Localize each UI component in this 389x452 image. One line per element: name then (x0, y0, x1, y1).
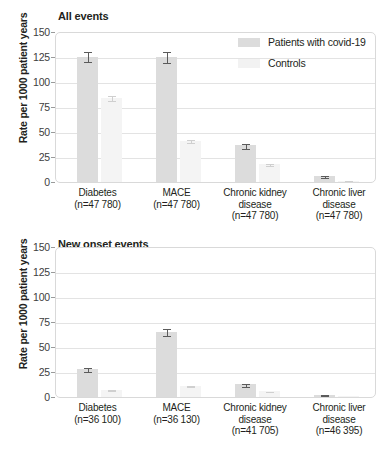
bar-covid-mace-new (156, 332, 177, 397)
x-label-diabetes-all: Diabetes (n=47 780) (55, 187, 140, 210)
x-label-cld-all-n: (n=47 780) (296, 210, 382, 222)
errorbar-covid-mace-new (167, 329, 168, 337)
x-label-cld-all: Chronic liver disease (n=47 780) (296, 187, 382, 222)
legend-swatch-covid-icon (238, 38, 260, 47)
x-label-ckd-new: Chronic kidney disease (n=41 705) (212, 402, 298, 437)
legend-label-covid: Patients with covid-19 (268, 36, 366, 48)
x-label-ckd-all-line2: disease (212, 199, 298, 211)
panel-all-events: All events Rate per 1000 patient years 1… (0, 0, 389, 226)
y-tickmark-150-new (51, 247, 55, 248)
y-tick-25-new: 25 (0, 366, 50, 378)
x-label-diabetes-new-name: Diabetes (55, 402, 140, 414)
gridline-125-all (56, 58, 375, 59)
errorbar-control-mace-new (191, 386, 192, 388)
gridline-25-new (56, 373, 375, 374)
y-tick-50-all: 50 (0, 126, 50, 138)
errorbar-covid-ckd-all (246, 144, 247, 150)
y-tick-75-new: 75 (0, 316, 50, 328)
errorbar-covid-cld-new (325, 395, 326, 397)
y-tickmark-0-new (51, 397, 55, 398)
gridline-125-new (56, 273, 375, 274)
y-tick-100-all: 100 (0, 76, 50, 88)
errorbar-control-ckd-new (270, 392, 271, 394)
x-label-ckd-new-n: (n=41 705) (212, 425, 298, 437)
errorbar-control-cld-new (349, 398, 350, 399)
errorbar-covid-mace-all (167, 52, 168, 64)
panel-new-onset-events: New onset events Rate per 1000 patient y… (0, 226, 389, 452)
x-label-ckd-new-line2: disease (212, 414, 298, 426)
y-tick-25-all: 25 (0, 151, 50, 163)
gridline-50-new (56, 348, 375, 349)
bar-control-diabetes-all (101, 98, 122, 182)
bar-covid-diabetes-all (77, 57, 98, 182)
x-label-mace-all-name: MACE (134, 187, 219, 199)
x-label-mace-new-n: (n=36 130) (134, 414, 219, 426)
bar-control-mace-all (180, 141, 201, 182)
x-label-diabetes-new: Diabetes (n=36 100) (55, 402, 140, 425)
gridline-100-new (56, 298, 375, 299)
x-label-cld-new-line2: disease (296, 414, 382, 426)
errorbar-control-diabetes-new (112, 390, 113, 392)
errorbar-control-cld-all (349, 181, 350, 182)
y-tick-0-new: 0 (0, 391, 50, 403)
x-label-mace-all: MACE (n=47 780) (134, 187, 219, 210)
x-label-cld-all-line1: Chronic liver (296, 187, 382, 199)
y-tick-125-new: 125 (0, 266, 50, 278)
x-label-ckd-all-n: (n=47 780) (212, 210, 298, 222)
legend-item-controls: Controls (238, 57, 306, 69)
y-tick-150-all: 150 (0, 26, 50, 38)
y-tick-50-new: 50 (0, 341, 50, 353)
gridline-75-new (56, 323, 375, 324)
errorbar-covid-ckd-new (246, 384, 247, 388)
x-label-mace-all-n: (n=47 780) (134, 199, 219, 211)
x-label-mace-new: MACE (n=36 130) (134, 402, 219, 425)
bar-covid-ckd-all (235, 145, 256, 182)
errorbar-covid-diabetes-all (88, 52, 89, 63)
errorbar-covid-cld-all (325, 176, 326, 179)
legend-swatch-control-icon (238, 59, 260, 68)
legend-item-covid: Patients with covid-19 (238, 36, 366, 48)
y-tick-100-new: 100 (0, 291, 50, 303)
y-tickmark-0-all (51, 182, 55, 183)
x-label-cld-new-line1: Chronic liver (296, 402, 382, 414)
x-label-ckd-new-line1: Chronic kidney (212, 402, 298, 414)
gridline-100-all (56, 83, 375, 84)
y-tick-75-all: 75 (0, 101, 50, 113)
y-tick-0-all: 0 (0, 176, 50, 188)
errorbar-control-diabetes-all (112, 96, 113, 102)
y-tick-125-all: 125 (0, 51, 50, 63)
x-label-diabetes-all-n: (n=47 780) (55, 199, 140, 211)
x-label-diabetes-new-n: (n=36 100) (55, 414, 140, 426)
errorbar-control-ckd-all (270, 164, 271, 167)
y-tick-150-new: 150 (0, 241, 50, 253)
plot-area-all-events (55, 32, 376, 183)
x-label-mace-new-name: MACE (134, 402, 219, 414)
bar-covid-diabetes-new (77, 369, 98, 397)
x-label-diabetes-all-name: Diabetes (55, 187, 140, 199)
x-label-ckd-all: Chronic kidney disease (n=47 780) (212, 187, 298, 222)
errorbar-control-mace-all (191, 140, 192, 144)
x-label-cld-new: Chronic liver disease (n=46 395) (296, 402, 382, 437)
errorbar-covid-diabetes-new (88, 368, 89, 373)
legend-label-controls: Controls (268, 57, 306, 69)
bar-covid-mace-all (156, 57, 177, 182)
panel-title-all-events: All events (58, 10, 108, 22)
y-tickmark-150-all (51, 32, 55, 33)
x-label-cld-all-line2: disease (296, 199, 382, 211)
x-label-ckd-all-line1: Chronic kidney (212, 187, 298, 199)
x-label-cld-new-n: (n=46 395) (296, 425, 382, 437)
plot-area-new-onset-events (55, 247, 376, 398)
